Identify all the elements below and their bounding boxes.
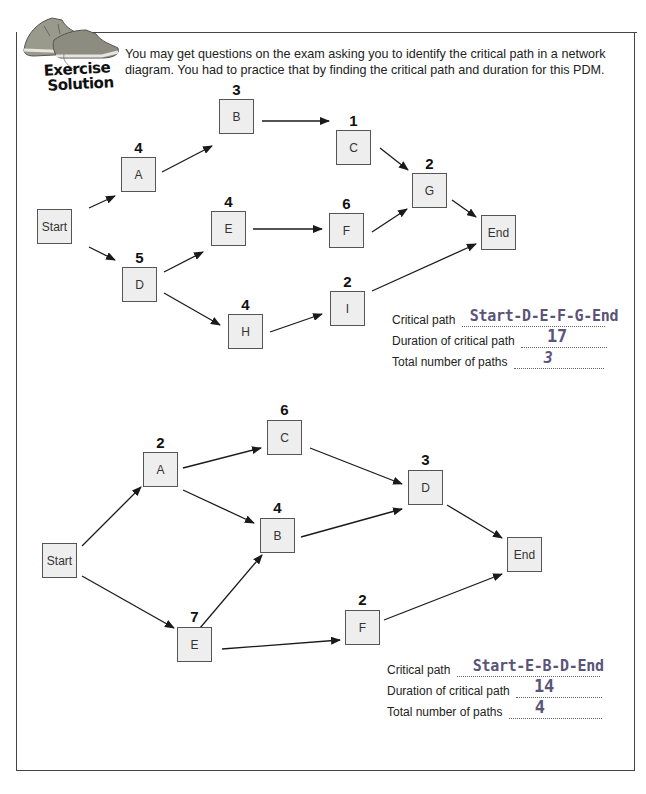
duration-field: 14 (516, 681, 602, 698)
node-c: C (267, 420, 302, 455)
paths-label: Total number of paths (387, 705, 502, 719)
duration-b: 4 (260, 499, 295, 516)
critical-path-row: Critical path Start-E-B-D-End (387, 660, 602, 681)
duration-f: 2 (345, 591, 380, 608)
duration-a: 2 (143, 434, 178, 451)
node-b: B (260, 518, 295, 553)
paths-field: 4 (509, 702, 602, 719)
duration-label: Duration of critical path (387, 684, 510, 698)
answers-diagram-2: Critical path Start-E-B-D-End Duration o… (387, 660, 602, 723)
duration-e: 7 (177, 608, 212, 625)
paths-row: Total number of paths 4 (387, 702, 602, 723)
duration-value: 14 (534, 676, 554, 696)
node-e: E (177, 627, 212, 662)
duration-row: Duration of critical path 14 (387, 681, 602, 702)
node-end: End (507, 537, 542, 572)
node-d: D (408, 470, 443, 505)
critical-path-value: Start-E-B-D-End (473, 657, 604, 675)
node-a: A (143, 452, 178, 487)
duration-d: 3 (408, 451, 443, 468)
paths-value: 4 (535, 697, 545, 717)
critical-path-label: Critical path (387, 663, 450, 677)
node-start: Start (42, 543, 77, 578)
node-f: F (345, 610, 380, 645)
critical-path-field: Start-E-B-D-End (457, 660, 600, 677)
duration-c: 6 (267, 401, 302, 418)
